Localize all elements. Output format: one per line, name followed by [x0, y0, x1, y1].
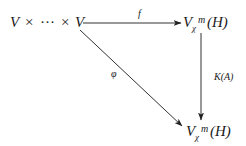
- times-symbol-2: ×: [61, 14, 69, 30]
- arrow-phi: [80, 30, 182, 126]
- ellipsis: ···: [40, 14, 55, 30]
- top-right-node: V χ m (H): [183, 14, 228, 33]
- top-right-superscript: m: [198, 14, 205, 25]
- times-symbol-1: ×: [25, 14, 33, 30]
- bottom-right-arg: (H): [210, 123, 231, 140]
- bottom-right-subscript: χ: [194, 132, 200, 142]
- bottom-right-superscript: m: [201, 123, 208, 134]
- top-right-arg: (H): [207, 14, 228, 31]
- commutative-diagram: V × ··· × V V χ m (H) V χ m (H) f φ K(A): [0, 0, 246, 146]
- top-right-subscript: χ: [191, 23, 197, 33]
- label-phi: φ: [111, 68, 117, 79]
- label-f: f: [138, 8, 142, 19]
- label-ka: K(A): [213, 71, 234, 83]
- source-v1: V: [10, 14, 21, 30]
- source-node: V × ··· × V: [10, 14, 86, 30]
- source-v2: V: [75, 14, 86, 30]
- bottom-right-node: V χ m (H): [186, 123, 231, 142]
